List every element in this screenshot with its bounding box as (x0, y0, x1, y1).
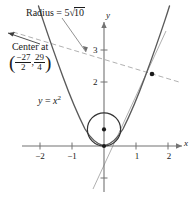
y-tick-label-3: 3 (93, 46, 98, 55)
origin-tangency-point (102, 144, 106, 148)
parabola-tangency-point (150, 72, 155, 77)
center-x-denominator: 2 (15, 63, 31, 72)
plot-canvas (0, 0, 196, 199)
x-axis-arrowhead (176, 143, 182, 148)
x-tick-label-1: 1 (135, 152, 140, 161)
radius-annotation: Radius = 5√10 (26, 7, 85, 18)
close-paren: ) (45, 55, 51, 71)
center-x-fraction: −272 (15, 53, 31, 73)
x-tick-label--1: −1 (67, 152, 77, 161)
y-axis-label: y (106, 11, 110, 20)
circle-center-point (102, 127, 106, 131)
center-caption-text: Center at (9, 42, 51, 52)
radius-label-text: Radius = 5 (26, 7, 69, 18)
equation-equals: = (42, 95, 53, 106)
center-leader-arrowhead (8, 32, 15, 37)
center-annotation: Center at (−272,294) (9, 42, 51, 73)
equation-exponent: 2 (58, 94, 62, 102)
center-y-denominator: 4 (34, 63, 45, 72)
center-coordinate-pair: (−272,294) (9, 53, 51, 73)
radius-radicand: 10 (74, 7, 85, 18)
x-tick-label--2: −2 (35, 152, 45, 161)
y-axis-arrowhead (101, 22, 106, 28)
math-figure: Radius = 5√10 Center at (−272,294) y = x… (0, 0, 196, 199)
radius-leader-line (62, 18, 86, 52)
x-tick-label-2: 2 (167, 152, 172, 161)
x-axis-label: x (184, 139, 188, 148)
y-tick-label-2: 2 (93, 78, 98, 87)
equation-annotation: y = x2 (38, 96, 61, 106)
center-y-fraction: 294 (34, 53, 45, 73)
